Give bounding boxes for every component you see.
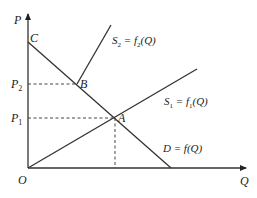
supply-curve-s2 (77, 25, 111, 84)
supply-demand-diagram: P Q O P2 P1 C B A S2 = f2(Q) S1 = f1(Q) … (0, 0, 257, 198)
y-axis-label: P (13, 13, 22, 27)
s1-curve-label: S1 = f1(Q) (164, 95, 208, 110)
p1-label: P1 (10, 111, 22, 127)
demand-curve-label: D = f(Q) (162, 142, 203, 155)
origin-label: O (18, 173, 27, 187)
point-b-label: B (80, 77, 88, 91)
x-axis-label: Q (240, 174, 249, 188)
p2-label: P2 (10, 77, 22, 93)
demand-curve (28, 42, 171, 168)
point-a-label: A (117, 111, 126, 125)
point-c-label: C (30, 31, 39, 45)
s2-curve-label: S2 = f2(Q) (112, 34, 156, 49)
